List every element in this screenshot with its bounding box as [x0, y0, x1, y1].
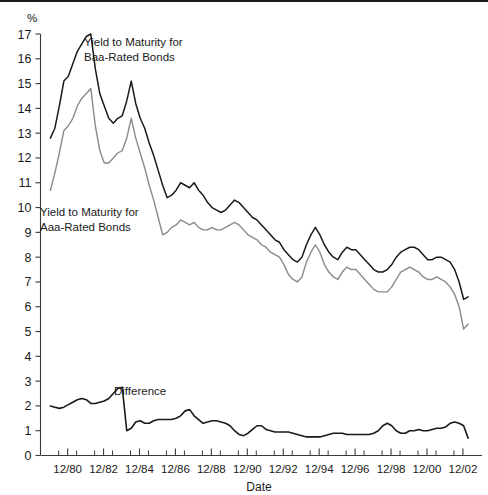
y-tick-label: 0 [25, 449, 32, 463]
x-tick-label: 12/92 [269, 463, 298, 475]
x-axis-ticks [68, 449, 463, 456]
bond-yield-line-chart: % 01234567891011121314151617 12/8012/821… [0, 0, 488, 495]
x-tick-label: 12/94 [305, 463, 334, 475]
y-tick-label: 6 [25, 300, 32, 314]
x-tick-label: 12/84 [125, 463, 154, 475]
y-tick-label: 9 [25, 226, 32, 240]
y-tick-label: 13 [18, 127, 32, 141]
y-tick-label: 2 [25, 399, 32, 413]
x-tick-label: 12/98 [377, 463, 406, 475]
x-axis-tick-labels: 12/8012/8212/8412/8612/8812/9012/9212/94… [53, 463, 477, 475]
y-tick-label: 11 [19, 176, 32, 190]
y-tick-label: 5 [25, 325, 32, 339]
x-tick-label: 12/96 [341, 463, 370, 475]
y-tick-label: 3 [25, 375, 32, 389]
y-tick-label: 1 [25, 424, 32, 438]
y-axis-tick-labels: 01234567891011121314151617 [18, 28, 32, 464]
y-axis-ticks [36, 34, 41, 456]
y-tick-label: 8 [25, 251, 32, 265]
y-tick-label: 4 [25, 350, 32, 364]
y-tick-label: 15 [18, 77, 32, 91]
x-tick-label: 12/00 [413, 463, 442, 475]
x-tick-label: 12/82 [89, 463, 118, 475]
y-tick-label: 16 [18, 52, 32, 66]
x-axis-minor-ticks [59, 451, 454, 456]
y-tick-label: 10 [18, 201, 32, 215]
annotation-baa-line2: Baa-Rated Bonds [84, 51, 175, 63]
annotation-baa-line1: Yield to Maturity for [84, 36, 183, 48]
y-tick-label: 7 [25, 275, 32, 289]
annotation-difference: Difference [114, 385, 166, 397]
annotation-aaa-line2: Aaa-Rated Bonds [40, 221, 131, 233]
x-tick-label: 12/88 [197, 463, 226, 475]
x-tick-label: 12/02 [449, 463, 478, 475]
chart-figure: % 01234567891011121314151617 12/8012/821… [0, 0, 488, 495]
series-line-baa [50, 34, 468, 299]
annotation-aaa-line1: Yield to Maturity for [40, 206, 139, 218]
x-tick-label: 12/80 [53, 463, 82, 475]
x-axis-title: Date [246, 480, 272, 494]
y-tick-label: 17 [18, 28, 32, 42]
y-tick-label: 14 [18, 102, 32, 116]
x-tick-label: 12/86 [161, 463, 190, 475]
y-tick-label: 12 [18, 151, 32, 165]
y-unit-label: % [27, 12, 37, 24]
x-tick-label: 12/90 [233, 463, 262, 475]
